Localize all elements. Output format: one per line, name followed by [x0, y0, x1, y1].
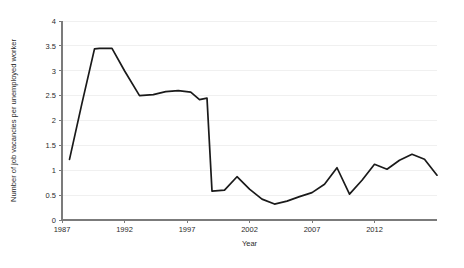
- x-tick-label: 2012: [366, 225, 383, 234]
- y-tick-label: 2: [52, 116, 56, 125]
- y-tick-label: 1.5: [46, 141, 56, 150]
- data-series: [70, 48, 438, 204]
- x-tick-label: 1997: [179, 225, 196, 234]
- y-tick-label: 1: [52, 166, 56, 175]
- x-tick-label: 2007: [304, 225, 321, 234]
- y-tick-label: 0: [52, 216, 56, 225]
- y-tick-label: 0.5: [46, 191, 56, 200]
- x-tick-label: 1992: [116, 225, 133, 234]
- y-axis-title: Number of job vacancies per unemployed w…: [9, 39, 18, 202]
- y-tick-label: 3.5: [46, 42, 56, 51]
- x-axis-ticks: 198719921997200220072012: [54, 220, 383, 234]
- y-tick-label: 2.5: [46, 91, 56, 100]
- series-path: [70, 48, 438, 204]
- x-tick-label: 1987: [54, 225, 71, 234]
- line-chart: 00.511.522.533.54 1987199219972002200720…: [0, 0, 464, 268]
- y-tick-label: 4: [52, 17, 56, 26]
- y-axis-ticks: 00.511.522.533.54: [46, 17, 62, 225]
- x-tick-label: 2002: [241, 225, 258, 234]
- chart-figure: 00.511.522.533.54 1987199219972002200720…: [0, 0, 464, 268]
- x-axis-title: Year: [242, 239, 258, 248]
- y-tick-label: 3: [52, 67, 56, 76]
